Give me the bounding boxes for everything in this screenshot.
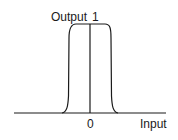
- flat-top-response-plot: Output 1 0 Input: [0, 0, 178, 140]
- x-origin-tick-label: 0: [87, 118, 94, 130]
- y-axis-label: Output: [51, 11, 87, 23]
- x-axis-label: Input: [140, 118, 167, 130]
- y-max-tick-label: 1: [92, 11, 99, 23]
